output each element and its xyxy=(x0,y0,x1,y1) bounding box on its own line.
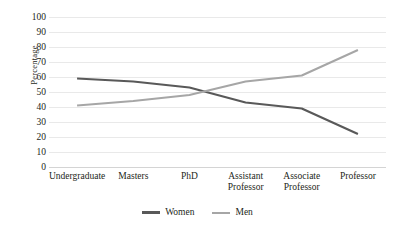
y-tick-label: 40 xyxy=(22,102,46,112)
x-tick-label-line1: Undergraduate xyxy=(49,171,105,181)
x-tick-label-line1: Masters xyxy=(118,171,148,181)
plot-area xyxy=(49,17,386,167)
y-tick-label: 70 xyxy=(22,57,46,67)
gridline xyxy=(49,167,386,168)
x-tick-label: Masters xyxy=(105,170,161,204)
y-tick-label: 30 xyxy=(22,117,46,127)
legend-item-women[interactable]: Women xyxy=(142,207,194,218)
x-tick-label: Professor xyxy=(330,170,386,204)
x-tick-label: Undergraduate xyxy=(49,170,105,204)
legend-swatch-icon xyxy=(142,211,160,214)
y-tick-label: 60 xyxy=(22,72,46,82)
y-axis-tick-labels: 0102030405060708090100 xyxy=(20,0,46,230)
y-tick-label: 10 xyxy=(22,147,46,157)
x-axis-tick-labels: UndergraduateMastersPhDAssistantProfesso… xyxy=(49,170,386,204)
x-tick-label-line1: Professor xyxy=(340,171,376,181)
y-tick-label: 100 xyxy=(22,12,46,22)
x-tick-label-line2: Professor xyxy=(218,182,274,193)
series-line-men xyxy=(77,50,358,106)
x-tick-label-line1: PhD xyxy=(181,171,198,181)
x-tick-label-line2: Professor xyxy=(274,182,330,193)
x-tick-label-line1: Assistant xyxy=(228,171,263,181)
x-tick-label: PhD xyxy=(161,170,217,204)
x-tick-label: AssociateProfessor xyxy=(274,170,330,204)
chart-legend: WomenMen xyxy=(0,207,395,218)
legend-item-men[interactable]: Men xyxy=(212,207,252,218)
y-tick-label: 80 xyxy=(22,42,46,52)
x-tick-label-line1: Associate xyxy=(283,171,320,181)
legend-swatch-icon xyxy=(212,212,230,214)
series-line-women xyxy=(77,79,358,135)
line-chart-figure: Percentage 0102030405060708090100 Underg… xyxy=(0,0,395,230)
y-tick-label: 50 xyxy=(22,87,46,97)
y-tick-label: 20 xyxy=(22,132,46,142)
y-tick-label: 90 xyxy=(22,27,46,37)
x-tick-label: AssistantProfessor xyxy=(218,170,274,204)
y-tick-label: 0 xyxy=(22,162,46,172)
legend-label: Women xyxy=(165,207,194,218)
series-layer xyxy=(49,17,386,167)
legend-label: Men xyxy=(235,207,252,218)
